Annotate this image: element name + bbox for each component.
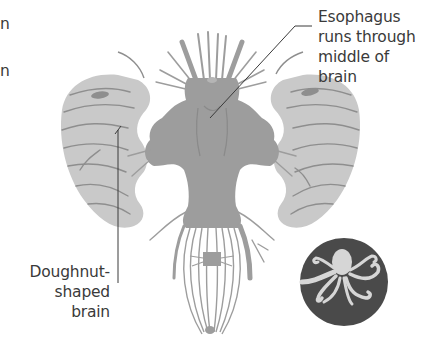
- doughnut-brain-label: Doughnut- shaped brain: [14, 262, 110, 322]
- left-optic-lobe: [61, 52, 150, 228]
- central-brain-mass: [145, 77, 279, 228]
- octopus-icon: [300, 238, 388, 326]
- subesophageal-ganglion: [203, 252, 221, 266]
- esophagus-label: Esophagus runs through middle of brain: [318, 7, 416, 87]
- arm-nerves: [184, 228, 240, 334]
- octopus-brain-diagram: n n: [0, 0, 421, 349]
